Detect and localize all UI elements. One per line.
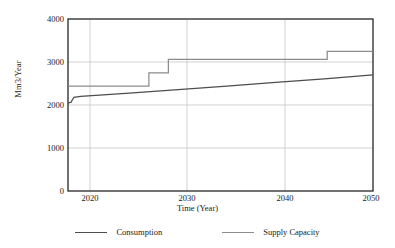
x-tick-label: 2040: [262, 194, 308, 203]
legend-label: Consumption: [116, 227, 162, 237]
legend-label: Supply Capacity: [263, 227, 319, 237]
x-tick-label: 2030: [164, 194, 210, 203]
legend-swatch-icon: [222, 232, 254, 233]
x-tick-label: 2020: [67, 194, 113, 203]
chart-figure: Mm3/Year 4000 3000 2000 1000 0 2020 2030…: [0, 0, 395, 248]
legend-item-supply-capacity: Supply Capacity: [222, 227, 319, 237]
chart-legend: Consumption Supply Capacity: [0, 224, 395, 240]
legend-item-consumption: Consumption: [75, 227, 162, 237]
x-tick-label: 2050: [348, 194, 394, 203]
x-axis-title: Time (Year): [0, 203, 395, 213]
legend-swatch-icon: [75, 232, 107, 233]
